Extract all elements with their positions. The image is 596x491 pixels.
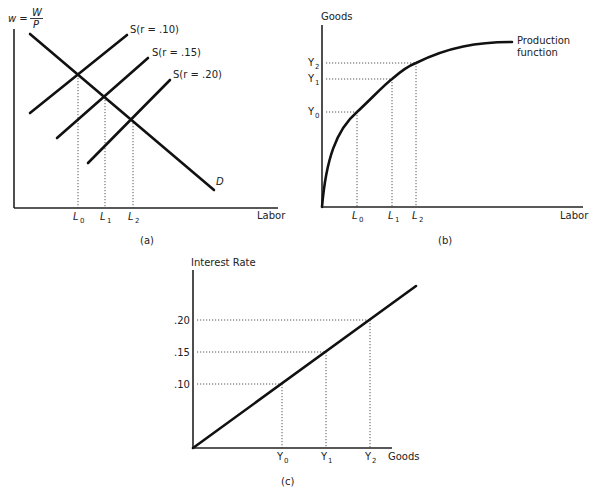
svg-text:0: 0 (284, 457, 288, 465)
production-function-label-line1: Production (517, 35, 570, 46)
panel-c-y-axis-label: Interest Rate (191, 257, 256, 268)
svg-text:1: 1 (328, 457, 332, 465)
panel-c-x-axis-label: Goods (388, 451, 420, 462)
svg-text:Y: Y (307, 73, 315, 84)
panel-a-x-tick-l0: L 0 (73, 211, 84, 225)
svg-text:2: 2 (315, 63, 319, 71)
panel-b-production-function: Goods Production function Y 2 Y 1 Y 0 L (307, 11, 589, 246)
demand-label: D (216, 176, 224, 187)
svg-text:2: 2 (372, 457, 376, 465)
svg-text:L: L (352, 210, 358, 221)
supply-label-r15: S(r = .15) (152, 47, 201, 58)
panel-c-y-tick-r15: .15 (174, 347, 190, 358)
panel-b-x-tick-l0: L 0 (352, 210, 363, 224)
panel-b-y-tick-y2: Y 2 (307, 57, 319, 71)
panel-a-x-tick-l2: L 2 (128, 211, 139, 225)
svg-text:L: L (128, 211, 134, 222)
panel-c-x-tick-y0: Y 0 (276, 451, 288, 465)
panel-b-x-axis-label: Labor (560, 210, 589, 221)
panel-a-caption: (a) (140, 235, 154, 246)
svg-text:0: 0 (359, 216, 363, 224)
panel-c-y-tick-r20: .20 (174, 315, 190, 326)
panel-c-y-tick-r10: .10 (174, 379, 190, 390)
svg-text:1: 1 (107, 217, 111, 225)
svg-text:Y: Y (276, 451, 284, 462)
svg-text:Y: Y (307, 106, 315, 117)
interest-rate-goods-line (193, 286, 416, 448)
panel-b-caption: (b) (438, 235, 452, 246)
panel-b-y-axis-label: Goods (321, 11, 353, 22)
svg-text:2: 2 (419, 216, 423, 224)
production-function-label-line2: function (517, 47, 558, 58)
panel-a-labor-market: w = W P D S(r = .10) S(r = .15) S(r = .2… (8, 7, 286, 246)
svg-text:Y: Y (320, 451, 328, 462)
panel-a-x-tick-l1: L 1 (100, 211, 111, 225)
svg-text:L: L (388, 210, 394, 221)
svg-text:2: 2 (135, 217, 139, 225)
svg-text:0: 0 (80, 217, 84, 225)
panel-b-x-tick-l1: L 1 (388, 210, 399, 224)
production-function-curve (322, 42, 512, 207)
supply-label-r10: S(r = .10) (130, 24, 179, 35)
svg-text:1: 1 (315, 79, 319, 87)
svg-text:w =: w = (8, 13, 28, 24)
svg-text:L: L (73, 211, 79, 222)
svg-text:0: 0 (315, 112, 319, 120)
svg-text:P: P (33, 19, 40, 30)
panel-c-caption: (c) (281, 476, 294, 487)
svg-text:L: L (100, 211, 106, 222)
panel-c-x-tick-y2: Y 2 (364, 451, 376, 465)
svg-text:L: L (412, 210, 418, 221)
svg-text:1: 1 (395, 216, 399, 224)
panel-c-x-tick-y1: Y 1 (320, 451, 332, 465)
panel-b-y-tick-y1: Y 1 (307, 73, 319, 87)
panel-c-interest-rate: Interest Rate .20 .15 .10 Y 0 Y 1 Y 2 Go… (174, 257, 420, 487)
panel-b-y-tick-y0: Y 0 (307, 106, 319, 120)
svg-text:W: W (32, 7, 43, 18)
panel-b-x-tick-l2: L 2 (412, 210, 423, 224)
svg-text:Y: Y (307, 57, 315, 68)
svg-text:Y: Y (364, 451, 372, 462)
panel-a-y-axis-label: w = W P (8, 7, 43, 30)
panel-a-x-axis-label: Labor (257, 210, 286, 221)
supply-label-r20: S(r = .20) (173, 69, 222, 80)
